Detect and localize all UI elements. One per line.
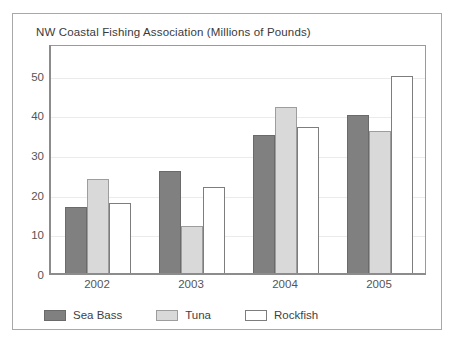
x-axis-line [49,273,426,275]
bar-sea-bass-2002 [65,207,87,274]
plot-area [50,45,426,275]
bar-rockfish-2005 [391,76,413,274]
y-axis-tick-label: 30 [4,150,44,162]
legend-swatch-icon [245,310,267,321]
y-axis-tick-label: 10 [4,229,44,241]
legend-swatch-icon [44,310,66,321]
x-axis-tick-label: 2005 [344,278,414,290]
legend-item-rockfish[interactable]: Rockfish [245,309,318,321]
bar-rockfish-2003 [203,187,225,274]
bar-tuna-2005 [369,131,391,274]
bar-sea-bass-2004 [253,135,275,274]
legend-label: Tuna [185,309,211,321]
legend-item-tuna[interactable]: Tuna [156,309,211,321]
bar-rockfish-2004 [297,127,319,274]
y-axis-tick-label: 40 [4,110,44,122]
chart-legend: Sea BassTunaRockfish [44,305,352,325]
y-axis-tick-label: 50 [4,71,44,83]
chart-title: NW Coastal Fishing Association (Millions… [36,26,311,38]
legend-label: Rockfish [274,309,318,321]
x-axis-tick-label: 2003 [156,278,226,290]
x-axis-tick-label: 2002 [62,278,132,290]
bar-sea-bass-2003 [159,171,181,274]
bar-tuna-2004 [275,107,297,274]
x-axis-tick-label: 2004 [250,278,320,290]
bar-sea-bass-2005 [347,115,369,274]
legend-swatch-icon [156,310,178,321]
bar-tuna-2002 [87,179,109,274]
y-axis-line [49,45,51,275]
y-axis-tick-label: 20 [4,190,44,202]
gridline [51,78,425,79]
bar-tuna-2003 [181,226,203,274]
legend-label: Sea Bass [73,309,122,321]
chart-figure: NW Coastal Fishing Association (Millions… [0,0,456,350]
legend-item-sea-bass[interactable]: Sea Bass [44,309,122,321]
y-axis-tick-labels: 01020304050 [0,45,44,275]
plot-inner [51,46,425,274]
y-axis-tick-label: 0 [4,269,44,281]
bar-rockfish-2002 [109,203,131,274]
